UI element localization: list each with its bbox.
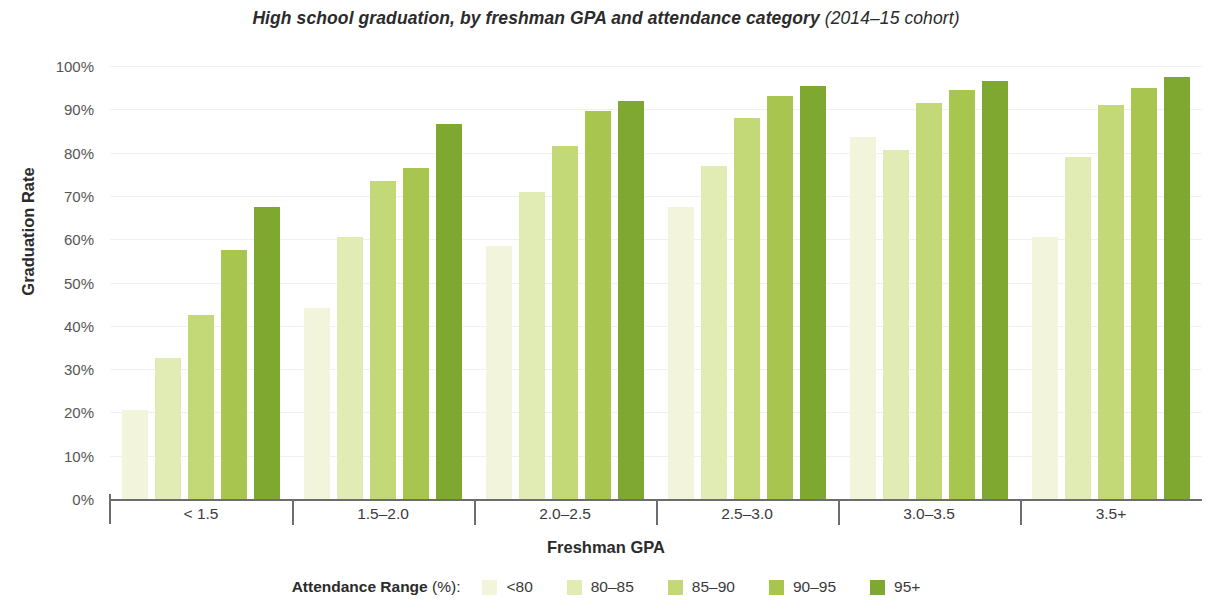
legend-label: 95+ [894,578,920,596]
bar-group [656,66,838,499]
bar[interactable] [767,96,793,499]
legend-items: <8080–8585–9090–9595+ [482,578,920,596]
bar[interactable] [1065,157,1091,499]
bar[interactable] [618,101,644,499]
bar[interactable] [188,315,214,499]
bar[interactable] [668,207,694,499]
bar[interactable] [519,192,545,499]
bar[interactable] [436,124,462,499]
legend-item[interactable]: 80–85 [567,578,634,596]
bar-group [474,66,656,499]
legend-title: Attendance Range (%): [292,578,461,596]
y-axis-tick-label: 20% [30,404,94,421]
y-axis-tick-label: 50% [30,274,94,291]
bar[interactable] [370,181,396,499]
bar[interactable] [403,168,429,499]
legend-title-unit: (%): [432,578,460,595]
chart-title: High school graduation, by freshman GPA … [0,8,1212,29]
y-axis-tick-label: 60% [30,231,94,248]
bar[interactable] [883,150,909,499]
bar[interactable] [916,103,942,499]
x-axis-category-label: 2.5–3.0 [656,505,838,539]
legend-label: 85–90 [692,578,735,596]
legend-label: <80 [506,578,532,596]
bar[interactable] [734,118,760,499]
legend-label: 80–85 [591,578,634,596]
bar[interactable] [585,111,611,499]
chart-subtitle: (2014–15 cohort) [825,8,960,28]
legend-item[interactable]: <80 [482,578,532,596]
x-axis-category-label: 2.0–2.5 [474,505,656,539]
bar[interactable] [486,246,512,499]
bar[interactable] [1098,105,1124,499]
x-axis-category-label: 3.5+ [1020,505,1202,539]
y-axis-tick-label: 100% [30,58,94,75]
y-axis-tick-label: 40% [30,317,94,334]
x-axis-title: Freshman GPA [0,538,1212,557]
y-axis-tick-label: 30% [30,361,94,378]
bar[interactable] [701,166,727,499]
legend-title-text: Attendance Range [292,578,428,595]
x-axis-category-label: 3.0–3.5 [838,505,1020,539]
bar-chart: High school graduation, by freshman GPA … [0,0,1212,613]
bar-group [1020,66,1202,499]
legend-swatch [482,580,497,595]
bar-group [110,66,292,499]
x-axis-category-label: < 1.5 [110,505,292,539]
chart-title-main: High school graduation, by freshman GPA … [252,8,819,28]
bar-group [838,66,1020,499]
bar[interactable] [552,146,578,499]
bar[interactable] [800,86,826,500]
bar[interactable] [155,358,181,499]
legend-swatch [870,580,885,595]
bar[interactable] [337,237,363,499]
legend-label: 90–95 [793,578,836,596]
bar[interactable] [1164,77,1190,499]
y-axis-tick-label: 80% [30,144,94,161]
bar[interactable] [122,410,148,499]
x-axis-labels: < 1.51.5–2.02.0–2.52.5–3.03.0–3.53.5+ [110,505,1202,539]
y-axis-tick-label: 90% [30,101,94,118]
bar[interactable] [949,90,975,499]
legend-item[interactable]: 90–95 [769,578,836,596]
bar[interactable] [982,81,1008,499]
legend-item[interactable]: 95+ [870,578,920,596]
bar[interactable] [1131,88,1157,499]
legend-swatch [769,580,784,595]
legend: Attendance Range (%): <8080–8585–9090–95… [0,578,1212,596]
legend-swatch [668,580,683,595]
bar[interactable] [304,308,330,499]
y-axis-tick-label: 0% [30,491,94,508]
y-axis-tick-label: 10% [30,447,94,464]
bar[interactable] [254,207,280,499]
bar-group [292,66,474,499]
legend-item[interactable]: 85–90 [668,578,735,596]
bar[interactable] [850,137,876,499]
bar-groups [110,66,1202,499]
legend-swatch [567,580,582,595]
y-axis-tick-label: 70% [30,187,94,204]
bar[interactable] [221,250,247,499]
x-axis-category-label: 1.5–2.0 [292,505,474,539]
bar[interactable] [1032,237,1058,499]
